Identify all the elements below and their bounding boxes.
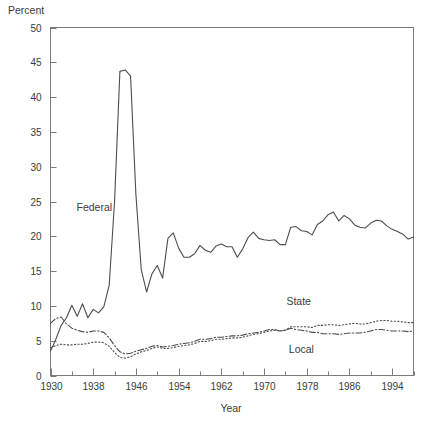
series-label-federal: Federal bbox=[76, 201, 112, 213]
y-tick-label: 45 bbox=[30, 57, 42, 68]
y-tick-label: 20 bbox=[30, 231, 42, 242]
x-tick-label: 1962 bbox=[210, 381, 233, 392]
x-tick-label: 1978 bbox=[296, 381, 319, 392]
x-tick-label: 1930 bbox=[40, 381, 63, 392]
x-tick-label: 1994 bbox=[381, 381, 404, 392]
x-axis-tick-labels: 193019381946195419621970197819861994 bbox=[40, 381, 404, 392]
series-label-state: State bbox=[286, 295, 311, 307]
x-tick-label: 1986 bbox=[338, 381, 361, 392]
chart-container: Percent 05101520253035404550 19301938194… bbox=[0, 0, 427, 429]
y-tick-label: 50 bbox=[30, 23, 42, 34]
chart-background bbox=[0, 0, 427, 429]
y-tick-label: 10 bbox=[30, 301, 42, 312]
y-tick-label: 40 bbox=[30, 92, 42, 103]
line-chart: Percent 05101520253035404550 19301938194… bbox=[0, 0, 427, 429]
y-tick-label: 30 bbox=[30, 162, 42, 173]
x-tick-label: 1970 bbox=[253, 381, 276, 392]
y-tick-label: 5 bbox=[36, 336, 42, 347]
x-axis-title: Year bbox=[220, 402, 242, 414]
series-label-local: Local bbox=[289, 343, 314, 355]
x-tick-label: 1946 bbox=[125, 381, 148, 392]
x-tick-label: 1938 bbox=[82, 381, 105, 392]
y-tick-label: 35 bbox=[30, 127, 42, 138]
x-tick-label: 1954 bbox=[168, 381, 191, 392]
y-tick-label: 15 bbox=[30, 266, 42, 277]
y-tick-label: 25 bbox=[30, 197, 42, 208]
y-axis-title: Percent bbox=[8, 4, 44, 16]
